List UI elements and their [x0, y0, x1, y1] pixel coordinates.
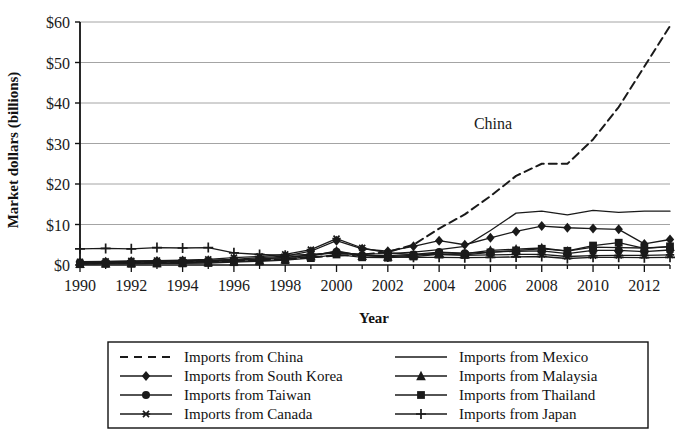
x-tick-label: 1994: [167, 277, 199, 294]
x-tick-label: 2002: [372, 277, 404, 294]
y-tick-label: $50: [46, 55, 70, 72]
y-tick-label: $60: [46, 14, 70, 31]
x-tick-label: 1998: [269, 277, 301, 294]
x-tick-label: 2000: [321, 277, 353, 294]
legend-label: Imports from Japan: [459, 406, 577, 422]
imports-line-chart: $0$10$20$30$40$50$60 1990199219941996199…: [0, 0, 677, 429]
square-marker: [153, 259, 161, 267]
square-marker: [230, 258, 238, 266]
legend-label: Imports from Mexico: [459, 349, 588, 365]
x-tick-label: 1992: [115, 277, 147, 294]
y-tick-label: $40: [46, 95, 70, 112]
y-axis-title: Market dollars (billions): [5, 72, 22, 229]
x-tick-label: 2004: [423, 277, 455, 294]
x-axis-title: Year: [359, 310, 389, 326]
square-marker: [127, 260, 135, 268]
square-marker: [204, 259, 212, 267]
annotation-label: China: [474, 115, 512, 132]
x-tick-label: 2010: [577, 277, 609, 294]
square-marker: [76, 260, 84, 268]
square-marker: [615, 239, 623, 247]
chart-annotations: China: [474, 115, 512, 132]
x-tick-label: 1996: [218, 277, 250, 294]
circle-marker: [142, 391, 150, 399]
square-marker: [102, 260, 110, 268]
square-marker: [179, 259, 187, 267]
y-tick-label: $0: [54, 257, 70, 274]
legend-label: Imports from Canada: [184, 406, 313, 422]
legend-label: Imports from Malaysia: [459, 368, 598, 384]
x-tick-label: 2006: [474, 277, 506, 294]
legend-label: Imports from South Korea: [184, 368, 343, 384]
chart-figure: $0$10$20$30$40$50$60 1990199219941996199…: [0, 0, 677, 429]
y-tick-label: $10: [46, 217, 70, 234]
y-tick-label: $20: [46, 176, 70, 193]
legend-label: Imports from Thailand: [459, 387, 596, 403]
square-marker: [666, 242, 674, 250]
legend-label: Imports from Taiwan: [184, 387, 311, 403]
y-tick-label: $30: [46, 136, 70, 153]
square-marker: [640, 244, 648, 252]
x-tick-label: 2012: [628, 277, 660, 294]
x-tick-label: 1990: [64, 277, 96, 294]
x-tick-label: 2008: [526, 277, 558, 294]
square-marker: [417, 391, 425, 399]
legend-label: Imports from China: [184, 349, 303, 365]
square-marker: [589, 242, 597, 250]
